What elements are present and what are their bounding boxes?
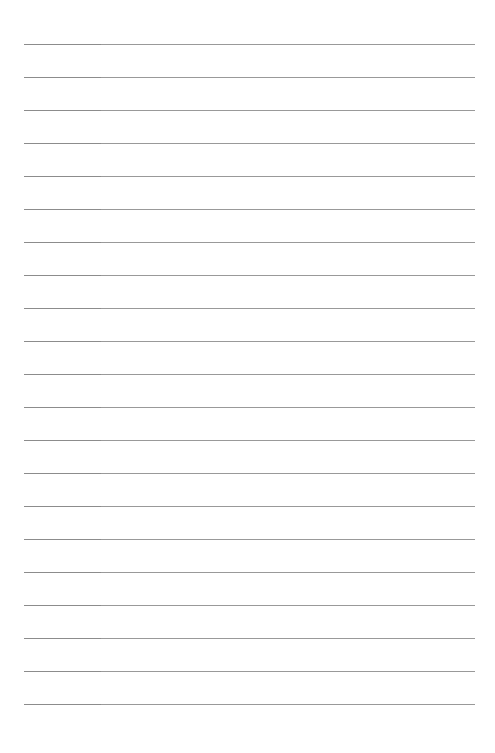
writing-line bbox=[24, 704, 475, 705]
line-right-segment bbox=[101, 374, 475, 375]
writing-line bbox=[24, 638, 475, 639]
writing-line bbox=[24, 605, 475, 606]
line-left-segment bbox=[24, 407, 101, 408]
writing-line bbox=[24, 506, 475, 507]
writing-line bbox=[24, 176, 475, 177]
line-left-segment bbox=[24, 638, 101, 639]
line-left-segment bbox=[24, 704, 101, 705]
line-left-segment bbox=[24, 374, 101, 375]
line-right-segment bbox=[101, 308, 475, 309]
line-left-segment bbox=[24, 506, 101, 507]
line-right-segment bbox=[101, 110, 475, 111]
line-right-segment bbox=[101, 44, 475, 45]
line-right-segment bbox=[101, 341, 475, 342]
line-left-segment bbox=[24, 275, 101, 276]
line-left-segment bbox=[24, 473, 101, 474]
line-right-segment bbox=[101, 638, 475, 639]
line-right-segment bbox=[101, 506, 475, 507]
line-right-segment bbox=[101, 407, 475, 408]
writing-line bbox=[24, 572, 475, 573]
line-left-segment bbox=[24, 44, 101, 45]
writing-line bbox=[24, 209, 475, 210]
line-left-segment bbox=[24, 605, 101, 606]
writing-line bbox=[24, 407, 475, 408]
writing-line bbox=[24, 77, 475, 78]
line-left-segment bbox=[24, 110, 101, 111]
line-left-segment bbox=[24, 308, 101, 309]
line-left-segment bbox=[24, 341, 101, 342]
line-right-segment bbox=[101, 242, 475, 243]
line-left-segment bbox=[24, 539, 101, 540]
writing-line bbox=[24, 275, 475, 276]
line-left-segment bbox=[24, 77, 101, 78]
writing-line bbox=[24, 143, 475, 144]
line-left-segment bbox=[24, 176, 101, 177]
line-right-segment bbox=[101, 473, 475, 474]
line-right-segment bbox=[101, 572, 475, 573]
line-right-segment bbox=[101, 539, 475, 540]
writing-line bbox=[24, 110, 475, 111]
writing-line bbox=[24, 374, 475, 375]
writing-line bbox=[24, 539, 475, 540]
writing-line bbox=[24, 440, 475, 441]
line-left-segment bbox=[24, 440, 101, 441]
line-right-segment bbox=[101, 440, 475, 441]
writing-line bbox=[24, 671, 475, 672]
line-left-segment bbox=[24, 242, 101, 243]
line-left-segment bbox=[24, 209, 101, 210]
writing-line bbox=[24, 341, 475, 342]
lined-page bbox=[0, 0, 495, 753]
writing-line bbox=[24, 308, 475, 309]
line-right-segment bbox=[101, 704, 475, 705]
line-left-segment bbox=[24, 671, 101, 672]
line-right-segment bbox=[101, 671, 475, 672]
writing-line bbox=[24, 44, 475, 45]
line-right-segment bbox=[101, 209, 475, 210]
line-right-segment bbox=[101, 605, 475, 606]
writing-line bbox=[24, 242, 475, 243]
line-right-segment bbox=[101, 176, 475, 177]
line-right-segment bbox=[101, 143, 475, 144]
line-left-segment bbox=[24, 143, 101, 144]
writing-line bbox=[24, 473, 475, 474]
line-left-segment bbox=[24, 572, 101, 573]
line-right-segment bbox=[101, 275, 475, 276]
line-right-segment bbox=[101, 77, 475, 78]
